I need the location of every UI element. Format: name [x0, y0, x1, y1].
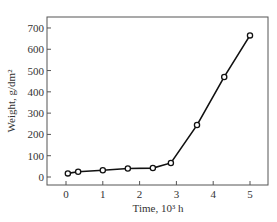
data-point-marker [125, 166, 130, 171]
y-tick-label: 200 [28, 128, 45, 140]
y-tick-label: 400 [28, 86, 45, 98]
data-point-marker [150, 165, 155, 170]
x-tick-label: 2 [137, 188, 143, 200]
data-point-marker [194, 122, 199, 127]
y-tick-label: 300 [28, 107, 45, 119]
plot-frame [47, 17, 268, 185]
data-point-marker [65, 171, 70, 176]
line-chart: 0100200300400500600700 012345 Time, 10³ … [0, 0, 277, 222]
data-point-marker [100, 168, 105, 173]
y-tick-label: 500 [28, 65, 45, 77]
x-axis-ticks: 012345 [63, 181, 253, 200]
y-axis-label: Weight, g/dm² [5, 69, 17, 133]
y-tick-label: 700 [28, 22, 45, 34]
x-tick-label: 5 [247, 188, 253, 200]
x-tick-label: 1 [100, 188, 106, 200]
data-markers [65, 33, 252, 176]
y-tick-label: 0 [39, 171, 45, 183]
x-axis-label: Time, 10³ h [133, 202, 184, 214]
data-line [68, 35, 250, 173]
data-point-marker [247, 33, 252, 38]
y-tick-label: 600 [28, 43, 45, 55]
data-point-marker [222, 74, 227, 79]
y-tick-label: 100 [28, 150, 45, 162]
data-point-marker [76, 169, 81, 174]
x-tick-label: 3 [174, 188, 180, 200]
x-tick-label: 0 [63, 188, 69, 200]
data-point-marker [168, 160, 173, 165]
x-tick-label: 4 [210, 188, 216, 200]
